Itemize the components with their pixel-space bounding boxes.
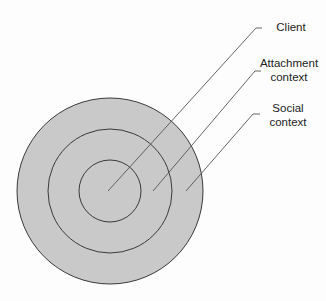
label-client-text: Client	[276, 21, 305, 33]
label-attachment-context: Attachment context	[259, 56, 319, 84]
label-social-line1: Social	[265, 101, 311, 115]
concentric-circles-graphic	[0, 0, 326, 301]
label-attachment-line1: Attachment	[259, 56, 319, 70]
outer-circle-social-context	[17, 98, 203, 284]
label-social-line2: context	[265, 115, 311, 129]
label-client: Client	[271, 20, 311, 34]
label-social-context: Social context	[265, 101, 311, 129]
diagram-canvas: Client Attachment context Social context	[0, 0, 326, 301]
label-attachment-line2: context	[259, 70, 319, 84]
